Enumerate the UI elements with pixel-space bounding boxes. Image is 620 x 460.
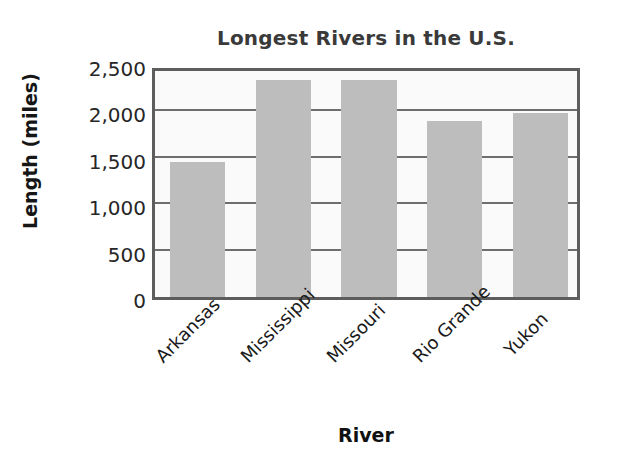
x-axis-title: River bbox=[152, 424, 580, 446]
plot-area bbox=[152, 68, 580, 300]
bar bbox=[427, 121, 482, 297]
y-tick-label: 1,000 bbox=[46, 196, 146, 220]
x-tick-label: Yukon bbox=[493, 308, 552, 367]
y-tick-label: 2,000 bbox=[46, 103, 146, 127]
chart-title: Longest Rivers in the U.S. bbox=[152, 26, 580, 50]
y-tick-label: 500 bbox=[46, 243, 146, 267]
bar bbox=[341, 80, 396, 297]
x-tick-label: Rio Grande bbox=[408, 308, 467, 367]
bar bbox=[513, 113, 568, 297]
y-tick-label: 1,500 bbox=[46, 150, 146, 174]
x-tick-label: Mississippi bbox=[237, 308, 296, 367]
bar-chart-figure: Longest Rivers in the U.S. Length (miles… bbox=[0, 0, 620, 460]
x-tick-label: Arkansas bbox=[151, 308, 210, 367]
y-tick-label: 2,500 bbox=[46, 57, 146, 81]
x-tick-label: Missouri bbox=[322, 308, 381, 367]
x-axis-tick-labels: ArkansasMississippiMissouriRio GrandeYuk… bbox=[152, 300, 580, 410]
y-axis-tick-labels: 05001,0001,5002,0002,500 bbox=[42, 68, 146, 300]
y-tick-label: 0 bbox=[46, 289, 146, 313]
bars-layer bbox=[155, 71, 577, 297]
bar bbox=[170, 162, 225, 297]
y-axis-title: Length (miles) bbox=[19, 71, 41, 231]
bar bbox=[256, 80, 311, 297]
